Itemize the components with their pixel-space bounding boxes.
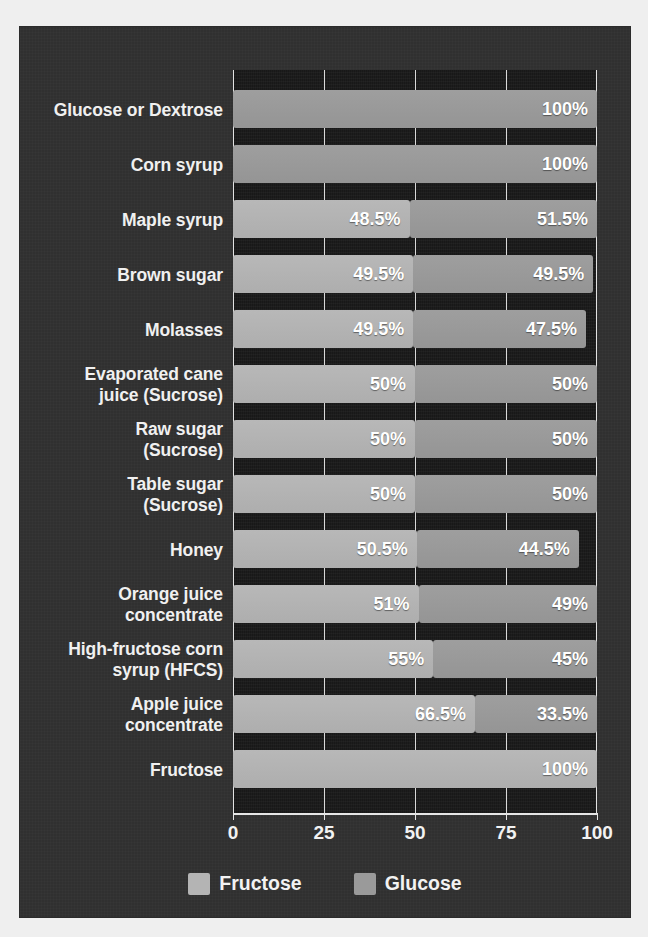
bar-segment-glucose[interactable]: 44.5% [417, 530, 579, 568]
bar-track: 100% [233, 90, 597, 128]
bar-row: Maple syrup48.5%51.5% [233, 200, 597, 255]
category-label: Corn syrup [20, 155, 223, 176]
bar-row: Molasses49.5%47.5% [233, 310, 597, 365]
bar-track: 50.5%44.5% [233, 530, 597, 568]
bar-segment-glucose[interactable]: 49.5% [413, 255, 593, 293]
legend-item-glucose[interactable]: Glucose [354, 872, 462, 895]
bar-row: Honey50.5%44.5% [233, 530, 597, 585]
bar-row: Orange juice concentrate51%49% [233, 585, 597, 640]
bar-row: Raw sugar (Sucrose)50%50% [233, 420, 597, 475]
legend-label-glucose: Glucose [385, 872, 462, 895]
x-tick-mark-0 [233, 813, 234, 820]
bar-row: Evaporated cane juice (Sucrose)50%50% [233, 365, 597, 420]
bar-row: Table sugar (Sucrose)50%50% [233, 475, 597, 530]
x-tick-label: 50 [404, 822, 425, 844]
bar-segment-glucose[interactable]: 50% [415, 475, 597, 513]
bar-row: High-fructose corn syrup (HFCS)55%45% [233, 640, 597, 695]
legend-item-fructose[interactable]: Fructose [188, 872, 301, 895]
chart-panel: Glucose or Dextrose100%Corn syrup100%Map… [20, 27, 630, 917]
bar-segment-fructose[interactable]: 100% [233, 750, 597, 788]
bar-row: Brown sugar49.5%49.5% [233, 255, 597, 310]
bar-segment-fructose[interactable]: 50% [233, 475, 415, 513]
bar-track: 48.5%51.5% [233, 200, 597, 238]
bar-track: 51%49% [233, 585, 597, 623]
category-label: High-fructose corn syrup (HFCS) [20, 639, 223, 681]
category-label: Fructose [20, 760, 223, 781]
bar-segment-glucose[interactable]: 33.5% [475, 695, 597, 733]
bar-row: Fructose100% [233, 750, 597, 805]
category-label: Apple juice concentrate [20, 694, 223, 736]
legend-swatch-glucose-icon [354, 873, 376, 895]
category-label: Table sugar (Sucrose) [20, 474, 223, 516]
category-label: Brown sugar [20, 265, 223, 286]
bar-segment-glucose[interactable]: 50% [415, 365, 597, 403]
bar-segment-fructose[interactable]: 66.5% [233, 695, 475, 733]
bar-track: 100% [233, 145, 597, 183]
chart-legend: Fructose Glucose [20, 872, 630, 895]
category-label: Molasses [20, 320, 223, 341]
bar-track: 50%50% [233, 420, 597, 458]
bar-row: Apple juice concentrate66.5%33.5% [233, 695, 597, 750]
bar-segment-fructose[interactable]: 49.5% [233, 310, 413, 348]
bar-segment-glucose[interactable]: 49% [419, 585, 597, 623]
category-label: Glucose or Dextrose [20, 100, 223, 121]
bar-track: 50%50% [233, 365, 597, 403]
bar-track: 50%50% [233, 475, 597, 513]
bar-track: 49.5%47.5% [233, 310, 597, 348]
bar-track: 49.5%49.5% [233, 255, 597, 293]
category-label: Honey [20, 540, 223, 561]
x-tick-label: 100 [581, 822, 613, 844]
bar-segment-glucose[interactable]: 45% [433, 640, 597, 678]
legend-label-fructose: Fructose [219, 872, 301, 895]
bar-row: Corn syrup100% [233, 145, 597, 200]
x-tick-mark-75 [506, 813, 507, 820]
bar-segment-fructose[interactable]: 50% [233, 420, 415, 458]
chart-figure: Glucose or Dextrose100%Corn syrup100%Map… [0, 0, 648, 937]
bar-segment-fructose[interactable]: 50.5% [233, 530, 417, 568]
bar-segment-glucose[interactable]: 47.5% [413, 310, 586, 348]
category-label: Orange juice concentrate [20, 584, 223, 626]
x-tick-mark-100 [597, 813, 598, 820]
bar-segment-fructose[interactable]: 50% [233, 365, 415, 403]
bar-segment-glucose[interactable]: 100% [233, 90, 597, 128]
x-tick-label: 75 [495, 822, 516, 844]
bar-segment-fructose[interactable]: 48.5% [233, 200, 410, 238]
x-tick-label: 25 [313, 822, 334, 844]
bar-segment-fructose[interactable]: 55% [233, 640, 433, 678]
bar-track: 66.5%33.5% [233, 695, 597, 733]
legend-swatch-fructose-icon [188, 873, 210, 895]
bar-track: 100% [233, 750, 597, 788]
bar-segment-glucose[interactable]: 51.5% [410, 200, 597, 238]
bar-segment-fructose[interactable]: 49.5% [233, 255, 413, 293]
category-label: Evaporated cane juice (Sucrose) [20, 364, 223, 406]
bar-row: Glucose or Dextrose100% [233, 90, 597, 145]
x-tick-mark-50 [415, 813, 416, 820]
x-tick-label: 0 [228, 822, 239, 844]
category-label: Raw sugar (Sucrose) [20, 419, 223, 461]
x-tick-mark-25 [324, 813, 325, 820]
category-label: Maple syrup [20, 210, 223, 231]
bar-track: 55%45% [233, 640, 597, 678]
plot-area: Glucose or Dextrose100%Corn syrup100%Map… [233, 70, 597, 813]
bar-segment-glucose[interactable]: 50% [415, 420, 597, 458]
bar-segment-fructose[interactable]: 51% [233, 585, 419, 623]
bar-segment-glucose[interactable]: 100% [233, 145, 597, 183]
